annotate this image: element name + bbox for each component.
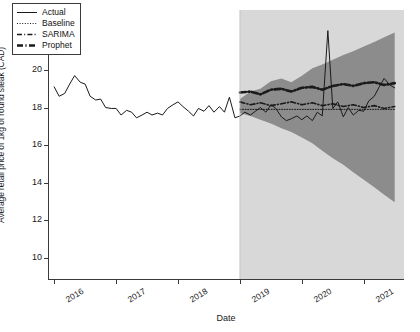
x-tick-label-2018: 2018 (188, 286, 209, 305)
y-tick-mark (44, 108, 48, 109)
x-tick-label-2021: 2021 (374, 286, 395, 305)
legend-label: SARIMA (42, 29, 75, 40)
x-tick-mark (302, 280, 303, 284)
y-tick-label-10: 10 (18, 252, 42, 262)
legend-label: Prophet (42, 40, 72, 51)
y-tick-mark (44, 220, 48, 221)
y-axis-label: Average retail price of 1kg of round ste… (0, 0, 10, 270)
y-tick-mark (44, 145, 48, 146)
plot-area (48, 10, 404, 280)
y-tick-mark (44, 183, 48, 184)
legend-key-baseline (16, 18, 38, 29)
y-tick-label-20: 20 (18, 64, 42, 74)
y-tick-label-18: 18 (18, 102, 42, 112)
x-tick-label-2020: 2020 (312, 286, 333, 305)
y-tick-label-12: 12 (18, 214, 42, 224)
legend-item-prophet[interactable]: Prophet (16, 40, 75, 51)
y-tick-label-16: 16 (18, 139, 42, 149)
x-axis-label: Date (48, 313, 404, 323)
legend-key-actual (16, 7, 38, 18)
forecast-chart-figure: Average retail price of 1kg of round ste… (0, 0, 420, 332)
x-tick-label-2017: 2017 (126, 286, 147, 305)
legend-key-prophet (16, 40, 38, 51)
legend-item-sarima[interactable]: SARIMA (16, 29, 75, 40)
legend-item-baseline[interactable]: Baseline (16, 18, 75, 29)
y-tick-mark (44, 258, 48, 259)
x-tick-mark (116, 280, 117, 284)
x-tick-mark (178, 280, 179, 284)
x-tick-label-2019: 2019 (250, 286, 271, 305)
x-tick-mark (364, 280, 365, 284)
x-tick-mark (240, 280, 241, 284)
legend-key-sarima (16, 29, 38, 40)
legend-label: Baseline (42, 18, 75, 29)
chart-legend: ActualBaselineSARIMAProphet (12, 3, 81, 55)
axis-frame (48, 10, 404, 280)
y-tick-label-14: 14 (18, 177, 42, 187)
legend-item-actual[interactable]: Actual (16, 7, 75, 18)
y-tick-mark (44, 70, 48, 71)
legend-label: Actual (42, 7, 66, 18)
x-tick-mark (54, 280, 55, 284)
x-tick-label-2016: 2016 (64, 286, 85, 305)
